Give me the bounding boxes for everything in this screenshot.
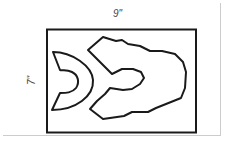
pattern-drawing (0, 0, 225, 141)
diagram-canvas: 9" 7" (0, 0, 225, 141)
keyhole-piece (88, 37, 186, 119)
crescent-piece (52, 52, 93, 110)
